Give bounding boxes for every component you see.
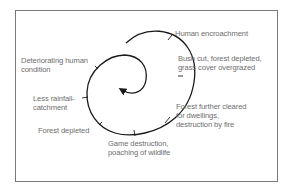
label-less-rainfall-line2: catchment <box>33 103 75 112</box>
label-deteriorating-line1: Deteriorating human <box>21 56 88 65</box>
label-forest-cleared-line2: for dwellings, <box>176 111 246 120</box>
label-deteriorating-line2: condition <box>21 65 88 74</box>
label-game-destruction: Game destruction, poaching of wildlife <box>108 139 170 157</box>
label-bush-cut-line2: grass cover overgrazed <box>178 63 262 72</box>
label-less-rainfall-line1: Less rainfall- <box>33 94 75 103</box>
label-game-destruction-line2: poaching of wildlife <box>108 148 170 157</box>
label-forest-cleared-line3: destruction by fire <box>176 120 246 129</box>
label-less-rainfall: Less rainfall- catchment <box>33 94 75 112</box>
label-forest-depleted: Forest depleted <box>38 126 89 135</box>
connector-human-encroachment <box>168 35 172 40</box>
label-human-encroachment: Human encroachment <box>175 29 248 38</box>
label-bush-cut-line1: Bush cut, forest depleted, <box>178 54 262 63</box>
label-bush-cut: Bush cut, forest depleted, grass cover o… <box>178 54 262 72</box>
label-forest-cleared-line1: Forest further cleared <box>176 102 246 111</box>
label-game-destruction-line1: Game destruction, <box>108 139 170 148</box>
label-forest-cleared: Forest further cleared for dwellings, de… <box>176 102 246 129</box>
label-deteriorating: Deteriorating human condition <box>21 56 88 74</box>
